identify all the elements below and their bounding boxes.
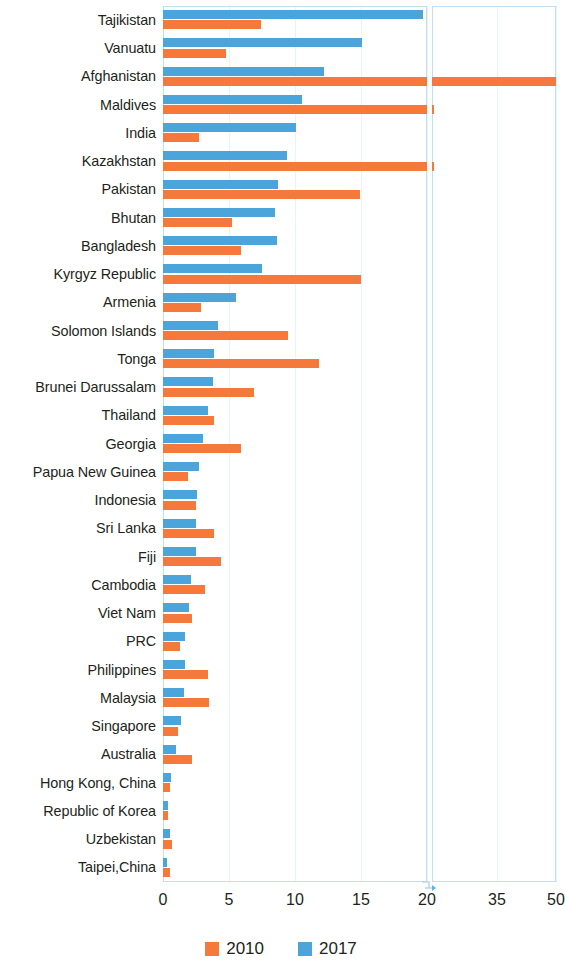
category-label: Solomon Islands: [0, 317, 156, 345]
bar-2017: [163, 745, 176, 754]
bar-row: Viet Nam: [0, 599, 562, 627]
bar-2017: [163, 829, 170, 838]
x-tick-label: 0: [159, 892, 168, 908]
bar-2010: [163, 275, 361, 284]
category-label: Thailand: [0, 402, 156, 430]
bar-2017: [163, 801, 168, 810]
bar-pair: [163, 571, 562, 599]
bar-row: Australia: [0, 741, 562, 769]
bar-row: Philippines: [0, 656, 562, 684]
legend-item-2010[interactable]: 2010: [205, 940, 264, 957]
bar-row: Thailand: [0, 402, 562, 430]
bar-2010: [163, 133, 199, 142]
bar-2010: [163, 529, 214, 538]
x-tick-label: 15: [352, 892, 370, 908]
bar-row: India: [0, 119, 562, 147]
legend-item-2017[interactable]: 2017: [298, 940, 357, 957]
bar-2017: [163, 95, 302, 104]
bar-2010: [163, 727, 178, 736]
bar-pair: [163, 486, 562, 514]
bar-2017: [163, 38, 362, 47]
category-label: India: [0, 119, 156, 147]
bar-2010: [163, 359, 319, 368]
bar-2010: [163, 670, 208, 679]
bar-2017: [163, 462, 199, 471]
bar-2017: [163, 575, 191, 584]
category-label: Philippines: [0, 656, 156, 684]
bar-2010: [163, 190, 360, 199]
bar-pair: [163, 599, 562, 627]
bar-row: Sri Lanka: [0, 515, 562, 543]
bar-row: Pakistan: [0, 176, 562, 204]
bar-row: Papua New Guinea: [0, 458, 562, 486]
bar-row: Bhutan: [0, 204, 562, 232]
bar-2010: [163, 501, 196, 510]
bar-2017: [163, 632, 185, 641]
legend-swatch-icon: [205, 942, 219, 956]
bar-row: Malaysia: [0, 684, 562, 712]
bar-row: Kazakhstan: [0, 147, 562, 175]
category-label: Taipei,China: [0, 854, 156, 882]
bar-2017: [163, 660, 185, 669]
bar-pair: [163, 147, 562, 175]
bar-row: Georgia: [0, 430, 562, 458]
bar-pair: [163, 769, 562, 797]
bar-2010-extension: [432, 77, 556, 86]
bar-2010: [163, 811, 168, 820]
bar-2010: [163, 557, 221, 566]
category-label: Singapore: [0, 712, 156, 740]
bar-pair: [163, 402, 562, 430]
bar-2010: [163, 755, 192, 764]
bar-row: Uzbekistan: [0, 825, 562, 853]
bar-2010: [163, 783, 170, 792]
bar-row: Fiji: [0, 543, 562, 571]
bar-pair: [163, 317, 562, 345]
bar-2017: [163, 236, 277, 245]
bar-pair: [163, 656, 562, 684]
bar-2010: [163, 20, 261, 29]
legend-label: 2017: [319, 940, 357, 957]
bar-2017: [163, 490, 197, 499]
bar-row: Bangladesh: [0, 232, 562, 260]
bar-2010: [163, 585, 205, 594]
bar-row: Taipei,China: [0, 854, 562, 882]
category-label: Vanuatu: [0, 34, 156, 62]
category-label: Indonesia: [0, 486, 156, 514]
bar-2010: [163, 416, 214, 425]
x-axis: 051015203550: [0, 884, 562, 924]
category-label: Georgia: [0, 430, 156, 458]
bar-row: Solomon Islands: [0, 317, 562, 345]
bar-2010: [163, 614, 192, 623]
bar-2017: [163, 349, 214, 358]
category-label: Sri Lanka: [0, 515, 156, 543]
bar-pair: [163, 34, 562, 62]
category-label: Uzbekistan: [0, 825, 156, 853]
bar-pair: [163, 6, 562, 34]
bar-2010: [163, 444, 241, 453]
bar-row: Maldives: [0, 91, 562, 119]
category-label: Bangladesh: [0, 232, 156, 260]
x-tick-label: 5: [225, 892, 234, 908]
category-label: Tonga: [0, 345, 156, 373]
bar-rows: TajikistanVanuatuAfghanistanMaldivesIndi…: [0, 6, 562, 882]
legend-swatch-icon: [298, 942, 312, 956]
x-tick-label: 20: [418, 892, 436, 908]
category-label: Bhutan: [0, 204, 156, 232]
bar-row: Brunei Darussalam: [0, 373, 562, 401]
bar-2017: [163, 406, 208, 415]
bar-2010: [163, 868, 170, 877]
bar-2017: [163, 123, 296, 132]
category-label: Pakistan: [0, 176, 156, 204]
bar-pair: [163, 854, 562, 882]
category-label: Maldives: [0, 91, 156, 119]
category-label: Republic of Korea: [0, 797, 156, 825]
category-label: Tajikistan: [0, 6, 156, 34]
bar-2010: [163, 472, 188, 481]
bar-row: Kyrgyz Republic: [0, 260, 562, 288]
bar-row: PRC: [0, 628, 562, 656]
bar-pair: [163, 628, 562, 656]
category-label: Armenia: [0, 289, 156, 317]
bar-2010: [163, 642, 180, 651]
bar-2010: [163, 840, 172, 849]
category-label: Australia: [0, 741, 156, 769]
